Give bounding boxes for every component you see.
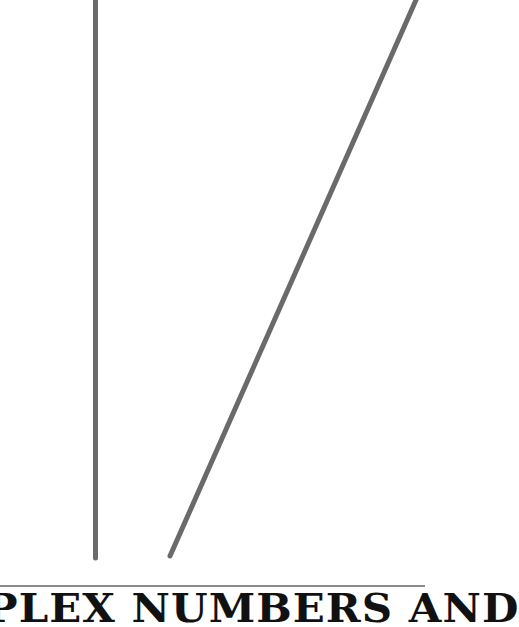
- diagonal-line: [170, 0, 416, 556]
- page-title: PLEX NUMBERS AND: [0, 588, 519, 627]
- cover-artwork: [0, 0, 433, 575]
